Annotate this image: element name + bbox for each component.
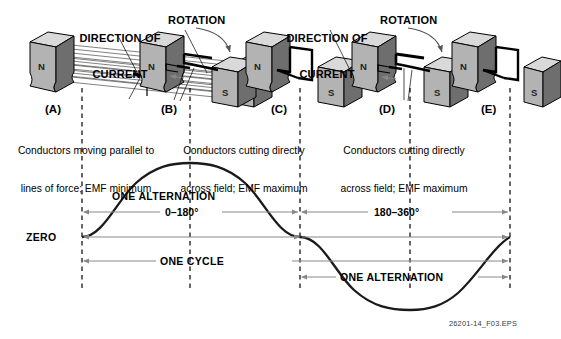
panel-b-south-pole-label: S: [222, 87, 228, 98]
panel-d-caption: Conductors cutting directly across field…: [328, 120, 480, 220]
panel-letter-e: (E): [481, 103, 496, 115]
panel-letter-c: (C): [271, 103, 287, 115]
panel-a-caption: Conductors moving parallel to lines of f…: [6, 120, 166, 220]
one-alternation-bottom-label: ONE ALTERNATION: [340, 271, 443, 283]
panel-e-south-magnet: S: [524, 57, 561, 107]
panel-e-north-pole-label: N: [460, 61, 467, 72]
panel-letter-b: (B): [161, 103, 177, 115]
rotation-arrow-2: [408, 28, 442, 52]
zero-label: ZERO: [26, 231, 56, 243]
panel-e-south-pole-label: S: [531, 87, 537, 98]
panel-b-caption: Conductors cutting directly across field…: [168, 120, 320, 220]
rotation-arrow-1: [196, 28, 230, 52]
one-cycle-label: ONE CYCLE: [160, 255, 224, 267]
panel-letter-a: (A): [45, 103, 61, 115]
rotation-label-1: ROTATION: [168, 14, 225, 26]
panel-c-north-pole-label: N: [254, 61, 261, 72]
direction-of-current-label-1: DIRECTION OF CURRENT: [65, 8, 175, 104]
panel-d-conductor-leader: [404, 68, 412, 101]
rotation-label-2: ROTATION: [380, 14, 437, 26]
panel-e-north-magnet: N: [452, 32, 496, 92]
degrees-first-half-label: 0–180°: [165, 206, 198, 218]
degrees-second-half-label: 180–360°: [374, 206, 419, 218]
ac-generation-figure: N S: [0, 0, 561, 339]
one-alternation-top-label: ONE ALTERNATION: [112, 190, 215, 202]
figure-id-label: 26201-14_F03.EPS: [449, 319, 517, 328]
panel-letter-d: (D): [379, 103, 395, 115]
panel-a-north-pole-label: N: [38, 61, 45, 72]
direction-of-current-label-2: DIRECTION OF CURRENT: [272, 8, 382, 104]
panel-d-south-pole-label: S: [434, 87, 440, 98]
